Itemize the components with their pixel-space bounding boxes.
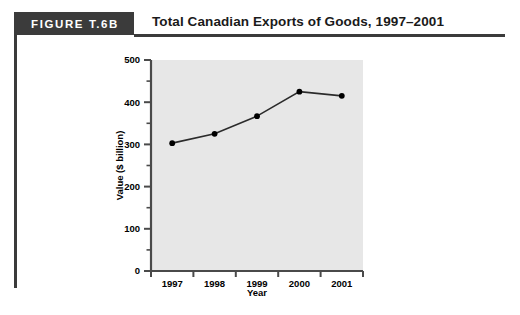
- x-axis-tick-label: 1998: [204, 278, 225, 289]
- chart-area: 0100200300400500 19971998199920002001 Ye…: [0, 0, 520, 315]
- plot-background: [151, 60, 363, 271]
- data-point-marker: [297, 89, 303, 95]
- y-axis-tick-label: 0: [135, 265, 140, 276]
- y-axis-tick-label: 400: [124, 97, 140, 108]
- data-point-marker: [254, 113, 260, 119]
- y-axis-tick-label: 300: [124, 139, 140, 150]
- x-axis-tick-label: 2001: [331, 278, 353, 289]
- data-point-marker: [212, 131, 218, 137]
- x-axis-title: Year: [247, 287, 267, 298]
- x-axis-tick-label: 2000: [289, 278, 310, 289]
- figure-container: FIGURE T.6B Total Canadian Exports of Go…: [0, 0, 520, 315]
- y-axis-tick-label: 100: [124, 223, 140, 234]
- data-point-marker: [339, 93, 345, 99]
- y-axis-tick-labels: 0100200300400500: [124, 54, 140, 276]
- y-axis-title: Value ($ billion): [114, 131, 125, 201]
- y-axis-tick-label: 500: [124, 54, 140, 65]
- line-chart: 0100200300400500 19971998199920002001 Ye…: [0, 0, 520, 315]
- data-point-marker: [169, 140, 175, 146]
- y-axis-tick-label: 200: [124, 181, 140, 192]
- x-axis-tick-label: 1997: [162, 278, 183, 289]
